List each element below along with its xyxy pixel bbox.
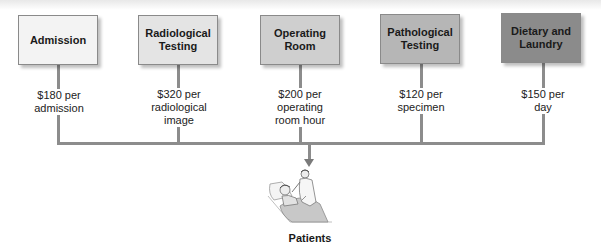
department-box-admission: Admission bbox=[18, 15, 98, 65]
patients-label: Patients bbox=[270, 232, 350, 244]
department-box-operating-room: OperatingRoom bbox=[260, 15, 340, 65]
cost-rate-operating-room: $200 peroperatingroom hour bbox=[255, 88, 345, 127]
connector-to-patients bbox=[308, 142, 311, 160]
department-box-dietary-laundry: Dietary andLaundry bbox=[501, 13, 581, 63]
department-label: PathologicalTesting bbox=[387, 26, 452, 52]
department-box-radiological-testing: RadiologicalTesting bbox=[138, 15, 218, 65]
department-label: RadiologicalTesting bbox=[145, 27, 210, 53]
department-label: Dietary andLaundry bbox=[511, 25, 571, 51]
department-label: Admission bbox=[30, 34, 86, 47]
department-label: OperatingRoom bbox=[274, 27, 326, 53]
cost-rate-radiological: $320 perradiologicalimage bbox=[134, 88, 224, 127]
cost-rate-admission: $180 peradmission bbox=[14, 89, 104, 115]
cost-rate-dietary: $150 perday bbox=[498, 88, 588, 114]
patient-in-bed-icon bbox=[262, 166, 352, 230]
department-box-pathological-testing: PathologicalTesting bbox=[380, 14, 460, 64]
top-shading bbox=[0, 0, 601, 10]
cost-rate-pathological: $120 perspecimen bbox=[376, 88, 466, 114]
